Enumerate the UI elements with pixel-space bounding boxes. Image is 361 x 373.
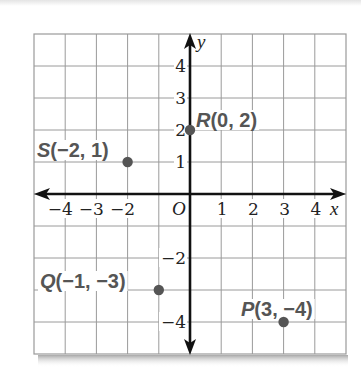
grid-shadow	[38, 355, 348, 367]
y-tick-label: 2	[175, 120, 186, 140]
y-tick-label: −4	[161, 312, 186, 332]
x-tick-label: 3	[279, 199, 290, 219]
point-marker	[154, 285, 164, 295]
origin-label: O	[172, 198, 186, 219]
point-label: P(3, −4)	[241, 298, 313, 320]
coordinate-plane: −4−3−212344321−2−4 x y O S(−2, 1)R(0, 2)…	[0, 0, 361, 373]
point-marker	[185, 125, 195, 135]
x-axis-label: x	[329, 198, 339, 219]
point-marker	[278, 317, 288, 327]
x-tick-label: −2	[110, 199, 135, 219]
y-tick-label: 1	[175, 152, 186, 172]
y-tick-label: −2	[161, 248, 186, 268]
point-marker	[122, 157, 132, 167]
y-tick-label: 4	[175, 56, 186, 76]
x-tick-label: 4	[310, 199, 321, 219]
point-label: R(0, 2)	[196, 109, 257, 131]
point-label: Q(−1, −3)	[40, 270, 126, 292]
point-label: S(−2, 1)	[37, 139, 109, 161]
y-tick-label: 3	[175, 88, 186, 108]
x-tick-label: −4	[48, 199, 73, 219]
y-axis-label: y	[195, 31, 206, 52]
x-tick-label: −3	[79, 199, 104, 219]
x-tick-label: 2	[248, 199, 259, 219]
x-tick-label: 1	[217, 199, 228, 219]
